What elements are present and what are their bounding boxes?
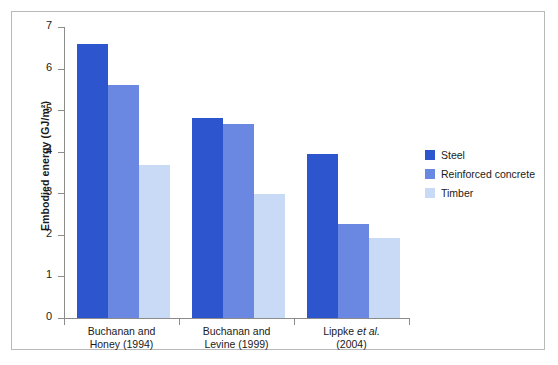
- bar: [108, 85, 139, 318]
- x-axis-line: [64, 318, 409, 319]
- x-axis-label-line: Lippke et al.: [294, 325, 409, 338]
- x-axis-separator: [294, 318, 295, 325]
- chart-figure: Embodied energy (GJ/m²) 76543210 Buchana…: [0, 0, 558, 365]
- x-axis-separator: [64, 318, 65, 325]
- legend-item: Steel: [425, 145, 535, 164]
- x-axis-group-label: Lippke et al.(2004): [294, 325, 409, 351]
- legend-item: Reinforced concrete: [425, 164, 535, 183]
- bar: [139, 165, 170, 318]
- bar: [307, 154, 338, 318]
- x-axis-group-label: Buchanan andHoney (1994): [64, 325, 179, 351]
- legend-swatch-icon: [425, 150, 435, 160]
- legend-label: Reinforced concrete: [441, 168, 535, 180]
- bar: [223, 124, 254, 318]
- x-axis-group-label: Buchanan andLevine (1999): [179, 325, 294, 351]
- x-axis-label-line: Buchanan and: [64, 325, 179, 338]
- bar: [192, 118, 223, 318]
- plot-area: Embodied energy (GJ/m²) 76543210 Buchana…: [0, 0, 558, 365]
- et-al-italic: et al.: [357, 325, 380, 337]
- legend-swatch-icon: [425, 169, 435, 179]
- x-axis-label-line: Levine (1999): [179, 338, 294, 351]
- x-axis-separator: [179, 318, 180, 325]
- x-axis-label-line: Honey (1994): [64, 338, 179, 351]
- legend-label: Steel: [441, 149, 465, 161]
- bar: [338, 224, 369, 318]
- x-axis-label-line: Buchanan and: [179, 325, 294, 338]
- bar: [254, 194, 285, 318]
- chart-legend: SteelReinforced concreteTimber: [425, 145, 535, 202]
- legend-swatch-icon: [425, 188, 435, 198]
- x-axis-label-line: (2004): [294, 338, 409, 351]
- legend-label: Timber: [441, 187, 473, 199]
- bar: [369, 238, 400, 318]
- x-axis-separator: [409, 318, 410, 325]
- bar: [77, 44, 108, 318]
- legend-item: Timber: [425, 183, 535, 202]
